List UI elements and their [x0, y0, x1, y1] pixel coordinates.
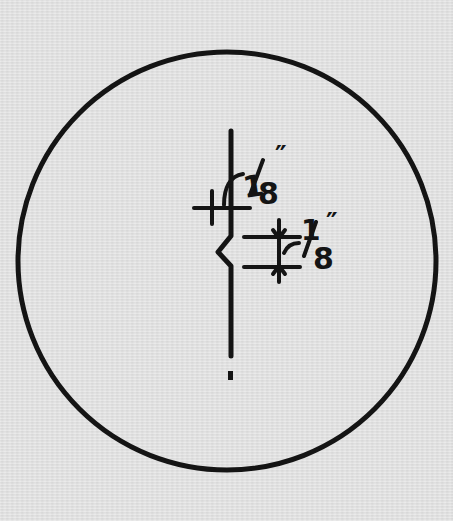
lower-unit-text: ″: [326, 208, 338, 238]
upper-inch-mark: ″: [275, 141, 287, 171]
detail-drawing: 1 8 ″ 1 8 ″: [0, 0, 453, 521]
lower-inch-mark: ″: [326, 208, 338, 238]
lower-dimension: 1 8 ″: [244, 208, 338, 282]
lower-leader-arc: [284, 243, 299, 253]
upper-denominator: 8: [258, 176, 279, 211]
lower-denominator-text: 8: [313, 241, 334, 276]
diagram-canvas: 1 8 ″ 1 8 ″: [0, 0, 453, 521]
upper-dimension: 1 8 ″: [194, 141, 287, 224]
main-vertical-line: [218, 131, 231, 356]
upper-unit-text: ″: [275, 141, 287, 171]
lower-denominator: 8: [313, 241, 334, 276]
end-dot: [228, 371, 233, 380]
upper-denominator-text: 8: [258, 176, 279, 211]
